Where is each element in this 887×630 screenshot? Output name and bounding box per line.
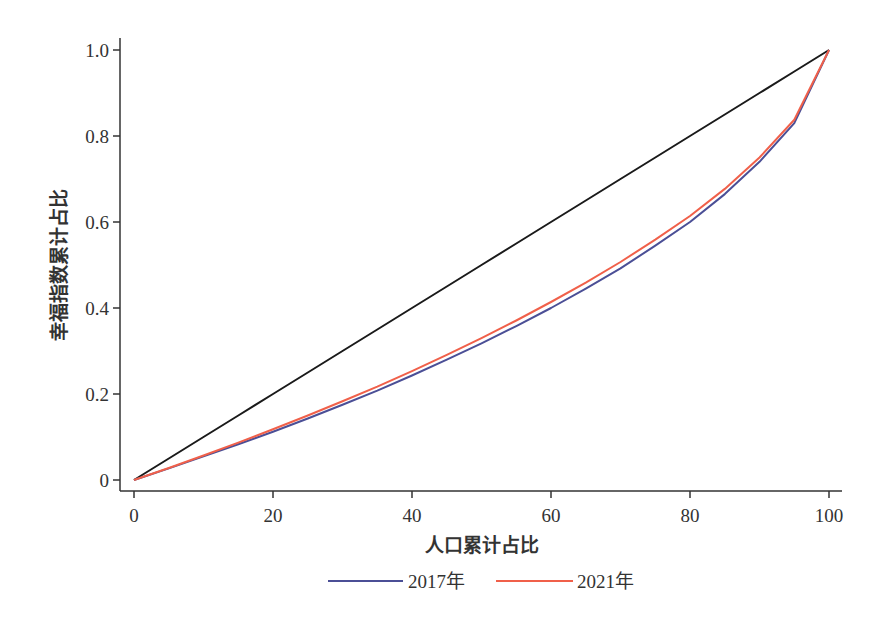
y-tick-label: 0.2 (85, 384, 109, 405)
y-tick-label: 1.0 (85, 40, 109, 61)
y-axis-title: 幸福指数累计占比 (48, 189, 70, 341)
y-tick-label: 0.6 (85, 212, 109, 233)
x-ticks: 020406080100 (129, 491, 843, 526)
y-axis: 00.20.40.60.81.0 (85, 38, 120, 491)
legend-label-2021: 2021年 (577, 571, 634, 592)
y-tick-label: 0 (100, 470, 110, 491)
legend-item-2017: 2017年 (328, 571, 465, 592)
x-axis: 020406080100 (120, 491, 843, 526)
x-tick-label: 80 (681, 505, 700, 526)
legend-label-2017: 2017年 (408, 571, 465, 592)
x-tick-label: 40 (403, 505, 422, 526)
legend-item-2021: 2021年 (496, 571, 634, 592)
series-line-equalityline (134, 50, 829, 480)
y-ticks: 00.20.40.60.81.0 (85, 40, 120, 491)
x-tick-label: 20 (264, 505, 283, 526)
plot-lines (134, 50, 829, 480)
y-tick-label: 0.8 (85, 126, 109, 147)
x-tick-label: 60 (542, 505, 561, 526)
x-axis-title: 人口累计占比 (425, 534, 539, 556)
legend: 2017年 2021年 (328, 571, 634, 592)
x-tick-label: 0 (129, 505, 139, 526)
lorenz-chart: 00.20.40.60.81.0 020406080100 人口累计占比 幸福指… (0, 0, 887, 630)
x-tick-label: 100 (815, 505, 844, 526)
y-tick-label: 0.4 (85, 298, 109, 319)
